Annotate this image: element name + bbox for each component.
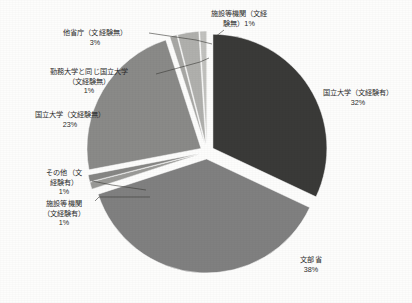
pie-label-monbusho: 文部省 38% [282,255,340,274]
pie-label-name: 文部省 [282,255,340,265]
pie-label-name: 国立大学（文経験無） [10,110,130,120]
pie-label-shisetsu-kikan-mukeiken: 施設等機関（文経 験無）1% [196,9,282,28]
pie-label-name-line2: 経験有） [32,178,96,188]
pie-label-value: 1% [28,218,100,228]
pie-label-text-line1: 施設等機関（文経 [196,9,282,19]
pie-label-value: 3% [36,38,154,48]
pie-label-name-line2: （文経験無） [14,77,164,87]
pie-label-value: 1% [32,187,96,197]
pie-label-name: 他省庁（文経験無） [36,28,154,38]
pie-label-name-line1: 施設等機関 [28,199,100,209]
pie-label-name-line1: 勤務大学と同じ国立大学 [14,67,164,77]
pie-label-kokuritsu-daigaku-keikenari: 国立大学（文経験有） 32% [312,88,404,107]
pie-label-value: 23% [10,120,130,130]
pie-label-value: 32% [312,98,404,108]
pie-label-sonota-keikenari: その他（文 経験有） 1% [32,168,96,197]
pie-label-name: 国立大学（文経験有） [312,88,404,98]
pie-chart: 施設等機関（文経 験無）1% 他省庁（文経験無） 3% 勤務大学と同じ国立大学 … [0,0,412,303]
pie-label-name-line1: その他（文 [32,168,96,178]
pie-label-kokuritsu-daigaku-mukeiken: 国立大学（文経験無） 23% [10,110,130,129]
pie-label-text-line2: 験無）1% [196,19,282,29]
pie-label-kinmu-daigaku: 勤務大学と同じ国立大学 （文経験無） 1% [14,67,164,96]
pie-label-shisetsu-kikan-keikenari: 施設等機関 （文経験有） 1% [28,199,100,228]
pie-label-value: 1% [14,86,164,96]
pie-label-name-line2: （文経験有） [28,209,100,219]
pie-label-tashocho: 他省庁（文経験無） 3% [36,28,154,47]
pie-label-value: 38% [282,265,340,275]
